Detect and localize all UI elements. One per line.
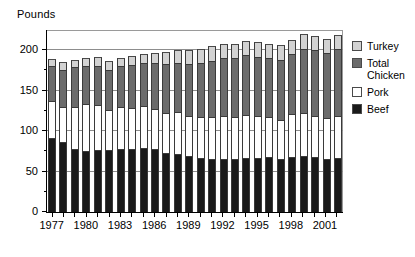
- plot-area: 050100150200: [46, 30, 343, 213]
- bar-segment-turkey: [71, 60, 79, 67]
- bar-segment-beef: [242, 158, 250, 212]
- bar-segment-pork: [231, 117, 239, 159]
- legend-label: Beef: [367, 103, 389, 115]
- bar-segment-pork: [277, 120, 285, 159]
- bar-segment-turkey: [254, 42, 262, 57]
- bar-segment-total-chicken: [242, 55, 250, 115]
- bar-segment-turkey: [59, 62, 67, 69]
- x-axis-tick: [52, 212, 53, 217]
- bar-segment-total-chicken: [71, 67, 79, 107]
- bar-segment-turkey: [323, 39, 331, 54]
- bar-segment-beef: [48, 138, 56, 212]
- bar-1989[interactable]: [185, 50, 193, 212]
- x-axis-tick: [302, 212, 303, 217]
- bar-segment-beef: [151, 149, 159, 212]
- bar-1992[interactable]: [220, 44, 228, 212]
- x-axis-tick: [268, 212, 269, 217]
- bar-segment-turkey: [208, 46, 216, 61]
- x-axis-tick: [279, 212, 280, 217]
- bar-1987[interactable]: [162, 52, 170, 212]
- bar-1990[interactable]: [197, 49, 205, 212]
- bar-segment-turkey: [334, 35, 342, 50]
- bar-2001[interactable]: [323, 39, 331, 212]
- y-axis-tick-label: 150: [20, 84, 38, 97]
- bar-segment-turkey: [140, 54, 148, 64]
- legend-item-turkey[interactable]: Turkey: [352, 40, 414, 52]
- legend-label: Total Chicken: [367, 57, 405, 81]
- bar-segment-turkey: [185, 50, 193, 64]
- legend-item-pork[interactable]: Pork: [352, 86, 414, 98]
- bar-2002[interactable]: [334, 35, 342, 212]
- legend-item-total-chicken[interactable]: Total Chicken: [352, 57, 414, 81]
- x-axis-tick: [234, 212, 235, 217]
- bar-1996[interactable]: [265, 44, 273, 212]
- bar-segment-pork: [94, 105, 102, 149]
- bar-segment-beef: [174, 154, 182, 212]
- bar-1986[interactable]: [151, 53, 159, 212]
- bar-segment-pork: [197, 117, 205, 157]
- bar-1983[interactable]: [117, 58, 125, 212]
- bar-segment-pork: [265, 117, 273, 157]
- x-axis-tick: [97, 212, 98, 217]
- bar-1981[interactable]: [94, 57, 102, 212]
- bar-segment-total-chicken: [48, 66, 56, 101]
- bar-segment-pork: [162, 113, 170, 153]
- bar-segment-total-chicken: [117, 66, 125, 106]
- bar-1993[interactable]: [231, 44, 239, 212]
- bar-segment-total-chicken: [185, 64, 193, 116]
- bar-segment-total-chicken: [265, 58, 273, 117]
- bar-segment-pork: [300, 113, 308, 157]
- bar-segment-turkey: [128, 56, 136, 65]
- bar-segment-turkey: [105, 61, 113, 70]
- bar-segment-pork: [288, 114, 296, 157]
- bar-1994[interactable]: [242, 41, 250, 212]
- bar-segment-pork: [208, 117, 216, 158]
- bar-segment-turkey: [162, 52, 170, 64]
- bar-segment-total-chicken: [59, 70, 67, 107]
- bar-segment-total-chicken: [105, 70, 113, 110]
- x-axis-tick: [86, 212, 87, 217]
- bar-segment-pork: [117, 107, 125, 149]
- bar-segment-total-chicken: [334, 49, 342, 115]
- bar-1999[interactable]: [300, 34, 308, 212]
- x-axis-tick: [154, 212, 155, 217]
- bar-2000[interactable]: [311, 36, 319, 212]
- bar-segment-total-chicken: [254, 57, 262, 116]
- bar-segment-beef: [140, 148, 148, 212]
- bar-segment-beef: [82, 151, 90, 212]
- bar-1998[interactable]: [288, 40, 296, 212]
- bar-segment-pork: [105, 110, 113, 150]
- bar-series-group: [47, 30, 343, 212]
- bar-1980[interactable]: [82, 58, 90, 212]
- bar-1977[interactable]: [48, 59, 56, 212]
- bar-segment-beef: [128, 149, 136, 212]
- bar-1982[interactable]: [105, 61, 113, 212]
- x-axis-ticks: [46, 212, 342, 218]
- stacked-bar-chart: Pounds 050100150200 19771980198319861989…: [0, 0, 415, 257]
- bar-1997[interactable]: [277, 45, 285, 212]
- bar-segment-beef: [94, 150, 102, 212]
- bar-1991[interactable]: [208, 46, 216, 212]
- x-axis-tick: [188, 212, 189, 217]
- bar-1988[interactable]: [174, 50, 182, 212]
- legend-item-beef[interactable]: Beef: [352, 103, 414, 115]
- bar-segment-beef: [162, 153, 170, 212]
- bar-segment-total-chicken: [311, 50, 319, 116]
- chart-legend: TurkeyTotal ChickenPorkBeef: [352, 40, 414, 120]
- x-axis-tick: [222, 212, 223, 217]
- bar-1995[interactable]: [254, 42, 262, 212]
- legend-swatch-icon: [352, 58, 362, 68]
- bar-segment-total-chicken: [220, 58, 228, 115]
- x-axis-tick: [120, 212, 121, 217]
- bar-1984[interactable]: [128, 56, 136, 212]
- bar-segment-beef: [277, 159, 285, 212]
- legend-label: Pork: [367, 86, 389, 98]
- x-axis-tick-label: 1992: [210, 219, 234, 232]
- x-axis-tick-label: 1980: [74, 219, 98, 232]
- bar-1985[interactable]: [140, 54, 148, 213]
- bar-segment-beef: [254, 158, 262, 212]
- bar-segment-turkey: [48, 59, 56, 66]
- bar-1979[interactable]: [71, 60, 79, 212]
- x-axis-tick: [200, 212, 201, 217]
- bar-1978[interactable]: [59, 62, 67, 212]
